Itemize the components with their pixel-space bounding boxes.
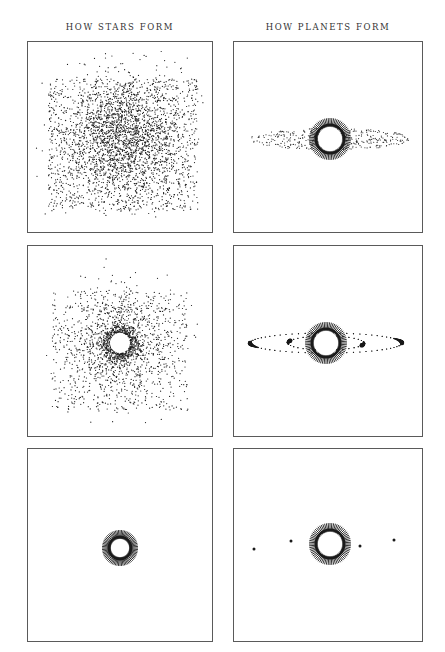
panel-stars-stage-3 [27,448,213,642]
planet-3 [359,545,362,548]
illustration [234,246,422,436]
panel-planets-stage-3 [233,448,423,642]
planet-4 [393,539,396,542]
star-icon [96,315,144,368]
panel-planets-stage-2 [233,245,423,437]
panel-stars-stage-2 [27,245,213,437]
star-icon [305,322,347,364]
planet-2 [290,540,293,543]
star-icon [309,118,351,160]
illustration [28,42,212,232]
illustration [234,42,422,232]
illustration [28,246,212,436]
heading-how-planets-form: HOW PLANETS FORM [233,22,423,32]
planet-1 [253,548,256,551]
star-icon [102,530,138,566]
panel-stars-stage-1 [27,41,213,233]
heading-how-stars-form: HOW STARS FORM [27,22,213,32]
panel-planets-stage-1 [233,41,423,233]
illustration [28,449,212,641]
star-icon [309,523,351,565]
illustration [234,449,422,641]
gas-cloud [36,51,204,218]
